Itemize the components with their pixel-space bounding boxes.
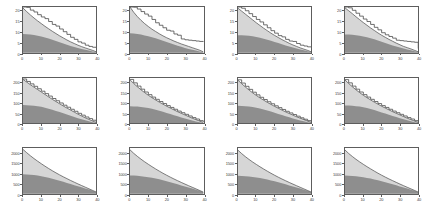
plot-area <box>130 148 203 194</box>
y-tick-mark <box>127 103 129 104</box>
y-tick-label: 50 <box>337 111 341 116</box>
y-tick-mark <box>20 103 22 104</box>
y-tick-label: 200 <box>121 79 127 84</box>
y-tick-mark <box>127 184 129 185</box>
chart-panel: 010203040050100150200 <box>344 77 419 125</box>
y-tick-label: 200 <box>335 79 341 84</box>
y-tick-label: 1500 <box>118 161 126 166</box>
x-tick-label: 30 <box>291 126 295 131</box>
x-tick-label: 20 <box>165 126 169 131</box>
axes-frame <box>237 77 312 125</box>
y-tick-label: 0 <box>17 122 19 127</box>
y-tick-label: 0 <box>17 192 19 197</box>
y-tick-label: 2000 <box>11 150 19 155</box>
plot-area <box>345 7 418 53</box>
x-tick-label: 10 <box>253 56 257 61</box>
y-tick-mark <box>235 43 237 44</box>
chart-cell-r1-c1: 01020304005101520 <box>0 0 107 71</box>
chart-panel: 01020304005101520 <box>22 6 97 54</box>
x-tick-label: 20 <box>165 56 169 61</box>
y-tick-mark <box>342 163 344 164</box>
chart-cell-r3-c1: 0102030400500100015002000 <box>0 141 107 212</box>
chart-panel: 0102030400500100015002000 <box>22 147 97 195</box>
y-tick-label: 50 <box>230 111 234 116</box>
chart-panel: 0102030400500100015002000 <box>237 147 312 195</box>
y-tick-mark <box>20 184 22 185</box>
x-tick-label: 20 <box>272 197 276 202</box>
y-tick-label: 20 <box>230 8 234 13</box>
x-tick-label: 30 <box>76 56 80 61</box>
y-tick-label: 20 <box>15 8 19 13</box>
x-tick-label: 20 <box>272 56 276 61</box>
x-tick-label: 10 <box>39 56 43 61</box>
y-tick-label: 0 <box>339 122 341 127</box>
x-tick-label: 40 <box>417 197 421 202</box>
axes-frame <box>22 6 97 54</box>
x-tick-label: 0 <box>128 197 130 202</box>
y-tick-mark <box>342 195 344 196</box>
plot-area <box>130 78 203 124</box>
x-tick-label: 0 <box>128 126 130 131</box>
y-tick-label: 0 <box>339 51 341 56</box>
y-tick-mark <box>235 82 237 83</box>
x-tick-label: 30 <box>76 197 80 202</box>
y-tick-mark <box>235 124 237 125</box>
y-tick-mark <box>127 82 129 83</box>
y-tick-mark <box>127 10 129 11</box>
y-tick-mark <box>20 10 22 11</box>
y-tick-label: 2000 <box>118 150 126 155</box>
y-tick-label: 2000 <box>226 150 234 155</box>
y-tick-mark <box>127 114 129 115</box>
x-tick-label: 30 <box>398 197 402 202</box>
x-tick-label: 0 <box>235 56 237 61</box>
x-tick-label: 40 <box>310 126 314 131</box>
y-tick-mark <box>20 21 22 22</box>
chart-cell-r1-c2: 01020304005101520 <box>107 0 214 71</box>
y-tick-label: 1500 <box>226 161 234 166</box>
chart-panel: 0102030400500100015002000 <box>344 147 419 195</box>
y-tick-label: 10 <box>337 29 341 34</box>
y-tick-label: 150 <box>13 90 19 95</box>
y-tick-mark <box>235 184 237 185</box>
x-tick-label: 10 <box>253 197 257 202</box>
y-tick-mark <box>235 21 237 22</box>
y-tick-mark <box>127 195 129 196</box>
y-tick-mark <box>342 43 344 44</box>
x-tick-label: 10 <box>360 126 364 131</box>
y-tick-label: 100 <box>13 101 19 106</box>
axes-frame <box>237 6 312 54</box>
x-tick-label: 0 <box>343 56 345 61</box>
axes-frame <box>129 6 204 54</box>
y-tick-mark <box>20 124 22 125</box>
chart-cell-r1-c3: 01020304005101520 <box>215 0 322 71</box>
plot-area <box>130 7 203 53</box>
x-tick-label: 0 <box>21 197 23 202</box>
x-tick-label: 0 <box>128 56 130 61</box>
x-tick-label: 30 <box>398 126 402 131</box>
y-tick-label: 150 <box>335 90 341 95</box>
y-tick-mark <box>235 153 237 154</box>
x-tick-label: 40 <box>95 56 99 61</box>
axes-frame <box>22 147 97 195</box>
y-tick-mark <box>235 163 237 164</box>
y-tick-label: 50 <box>123 111 127 116</box>
y-tick-mark <box>20 32 22 33</box>
chart-cell-r3-c4: 0102030400500100015002000 <box>322 141 429 212</box>
y-tick-mark <box>20 114 22 115</box>
y-tick-label: 5 <box>17 40 19 45</box>
y-tick-label: 0 <box>17 51 19 56</box>
y-tick-mark <box>20 163 22 164</box>
x-tick-label: 20 <box>379 197 383 202</box>
y-tick-mark <box>342 32 344 33</box>
y-tick-mark <box>235 93 237 94</box>
plot-area <box>345 148 418 194</box>
x-tick-label: 40 <box>95 126 99 131</box>
y-tick-label: 1000 <box>11 171 19 176</box>
x-tick-label: 20 <box>165 197 169 202</box>
y-tick-label: 200 <box>228 79 234 84</box>
x-tick-label: 10 <box>39 197 43 202</box>
y-tick-label: 0 <box>125 51 127 56</box>
axes-frame <box>344 147 419 195</box>
x-tick-label: 0 <box>235 126 237 131</box>
x-tick-label: 10 <box>146 126 150 131</box>
